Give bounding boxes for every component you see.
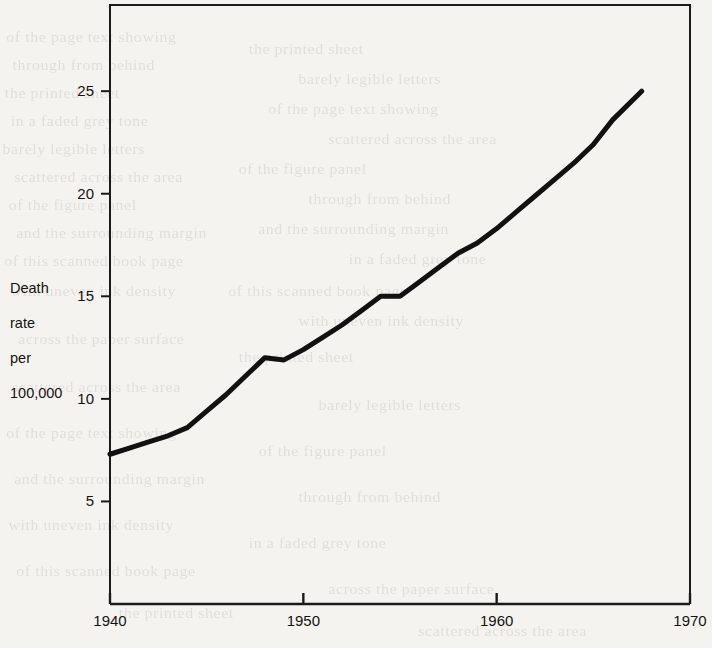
y-axis-tick-label: 5	[52, 492, 94, 509]
x-axis-ticks	[110, 593, 690, 604]
y-axis-title-line: rate	[10, 315, 62, 333]
y-axis-title-line: Death	[10, 280, 62, 298]
y-axis-title-line: 100,000	[10, 385, 62, 403]
y-axis-tick-label: 25	[52, 82, 94, 99]
death-rate-line-chart: 510152025 1940195019601970 Death rate pe…	[0, 0, 712, 648]
chart-plot-area	[0, 0, 712, 648]
x-axis-tick-label: 1960	[467, 612, 527, 629]
x-axis-tick-label: 1970	[660, 612, 712, 629]
y-axis-title: Death rate per 100,000	[10, 262, 62, 420]
y-axis-ticks	[101, 91, 110, 501]
y-axis-title-line: per	[10, 350, 62, 368]
y-axis-tick-label: 20	[52, 185, 94, 202]
x-axis-tick-label: 1940	[80, 612, 140, 629]
plot-frame	[110, 5, 690, 604]
x-axis-tick-label: 1950	[273, 612, 333, 629]
death-rate-series-line	[110, 91, 642, 454]
